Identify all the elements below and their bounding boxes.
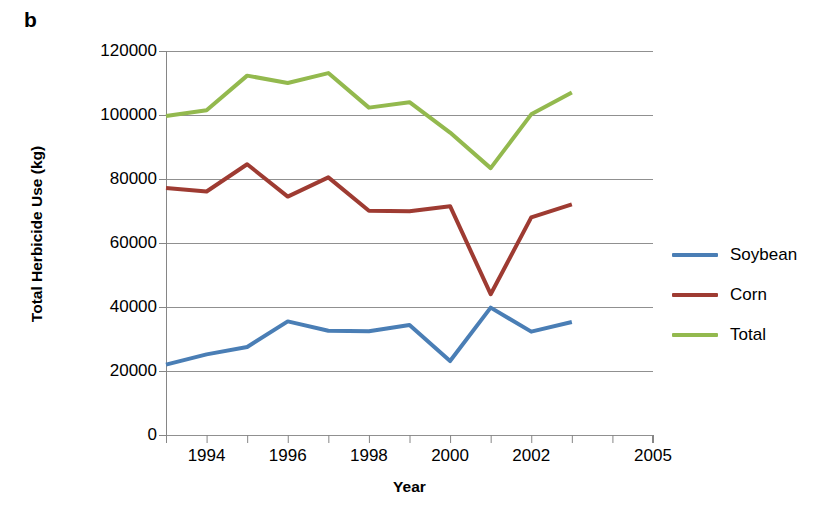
chart-canvas	[166, 51, 653, 435]
legend-swatch-icon	[672, 293, 718, 297]
legend-item-corn[interactable]: Corn	[672, 275, 797, 315]
legend-swatch-icon	[672, 333, 718, 337]
x-axis-tick-label: 2000	[431, 446, 469, 466]
y-axis-tick-label: 100000	[100, 105, 157, 125]
legend-label: Soybean	[730, 245, 797, 265]
chart-legend: SoybeanCornTotal	[672, 235, 797, 355]
x-axis-tick-label: 1996	[269, 446, 307, 466]
y-axis-tick-label: 120000	[100, 41, 157, 61]
panel-letter-label: b	[24, 8, 37, 32]
legend-item-total[interactable]: Total	[672, 315, 797, 355]
legend-label: Total	[730, 325, 766, 345]
y-axis-tick-label: 40000	[110, 297, 157, 317]
legend-item-soybean[interactable]: Soybean	[672, 235, 797, 275]
x-axis-title: Year	[166, 478, 653, 496]
figure-panel-b: b Total Herbicide Use (kg) Year 02000040…	[0, 0, 820, 520]
y-axis-tick-label: 80000	[110, 169, 157, 189]
x-axis-tick-label: 1994	[188, 446, 226, 466]
series-line-total	[166, 73, 572, 168]
x-axis-tick-label: 1998	[350, 446, 388, 466]
y-axis-title: Total Herbicide Use (kg)	[28, 74, 46, 394]
series-line-corn	[166, 164, 572, 294]
legend-swatch-icon	[672, 253, 718, 257]
x-axis-tick-label: 2002	[512, 446, 550, 466]
plot-area: 0200004000060000800001000001200001994199…	[166, 51, 653, 435]
legend-label: Corn	[730, 285, 767, 305]
y-axis-tick-label: 0	[148, 425, 157, 445]
y-axis-tick-label: 60000	[110, 233, 157, 253]
series-line-soybean	[166, 308, 572, 365]
x-axis-tick-label: 2005	[634, 446, 672, 466]
y-axis-tick-label: 20000	[110, 361, 157, 381]
